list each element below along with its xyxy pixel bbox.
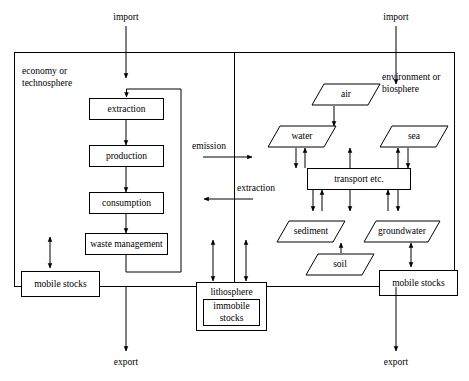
node-production-label: production [106, 151, 147, 161]
extraction-flow-label: extraction [237, 183, 275, 193]
node-water-label: water [291, 131, 313, 141]
node-mobile-stocks-economy-label: mobile stocks [34, 279, 87, 289]
node-waste-management-label: waste management [90, 239, 163, 249]
node-sediment-label: sediment [294, 226, 329, 236]
node-immobile-stocks-label-line2: stocks [220, 313, 244, 323]
import-economy-label: import [113, 12, 139, 22]
export-environment-label: export [384, 357, 409, 367]
import-environment-label: import [383, 12, 409, 22]
node-groundwater-label: groundwater [378, 226, 427, 236]
node-air-label: air [341, 89, 352, 99]
node-consumption-label: consumption [102, 198, 151, 208]
node-lithosphere-label: lithosphere [210, 287, 252, 297]
region-label-environment-line2: biosphere [382, 84, 419, 94]
region-label-economy-line2: technosphere [22, 78, 72, 88]
node-extraction-process-label: extraction [108, 104, 146, 114]
region-label-economy-line1: economy or [22, 66, 68, 76]
node-soil-label: soil [333, 259, 347, 269]
emission-label: emission [192, 141, 226, 151]
node-sea-label: sea [408, 131, 421, 141]
node-immobile-stocks-label-line1: immobile [213, 301, 249, 311]
node-mobile-stocks-environment-label: mobile stocks [392, 278, 445, 288]
node-transport-label: transport etc. [334, 174, 384, 184]
export-economy-label: export [114, 357, 139, 367]
flow-diagram: economy or technosphere environment or b… [0, 0, 469, 381]
region-label-environment-line1: environment or [382, 72, 441, 82]
diagram-canvas: economy or technosphere environment or b… [0, 0, 469, 381]
